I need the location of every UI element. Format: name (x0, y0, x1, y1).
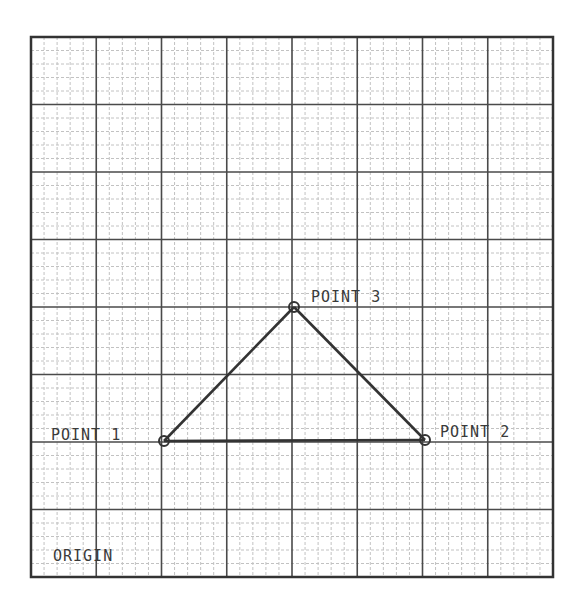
point-2-label: POINT 2 (440, 423, 510, 441)
point-3-marker: POINT 3 (289, 288, 381, 312)
point-3-label: POINT 3 (311, 288, 381, 306)
triangle-edge (164, 440, 425, 441)
triangle-edge (294, 307, 425, 440)
origin-label: ORIGIN (53, 547, 113, 565)
triangle-points: POINT 1POINT 2POINT 3 (51, 288, 510, 446)
point-1-label: POINT 1 (51, 426, 121, 444)
triangle-diagram: POINT 1POINT 2POINT 3 ORIGIN (0, 0, 580, 605)
